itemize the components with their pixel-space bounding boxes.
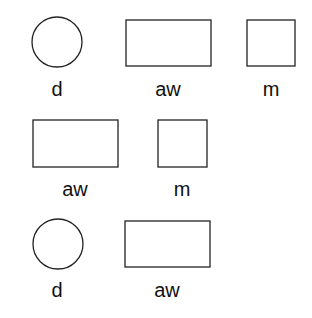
shape-label: aw [154, 279, 180, 301]
shape-label: d [51, 279, 62, 301]
shape-label: d [51, 78, 62, 100]
rectangle-shape [126, 20, 211, 66]
shape-label: aw [155, 78, 181, 100]
rectangle-shape [33, 120, 118, 167]
square-shape [247, 20, 295, 66]
circle-shape [33, 219, 83, 269]
shape-diagram: d aw m aw m d aw [0, 0, 312, 318]
shape-label: m [263, 78, 280, 100]
circle-shape [32, 17, 82, 67]
shape-label: aw [62, 178, 88, 200]
rectangle-shape [125, 221, 210, 267]
square-shape [158, 120, 207, 167]
shape-label: m [174, 178, 191, 200]
